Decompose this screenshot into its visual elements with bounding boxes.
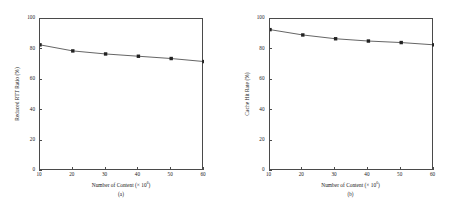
x-axis-label-a-prefix: Number of Content (× 10: [92, 182, 147, 188]
x-tick-label: 60: [193, 172, 213, 177]
y-tick-label: 60: [237, 76, 265, 81]
y-tick-label: 60: [7, 76, 35, 81]
chart-panel-a: 020406080100 102030405060 Reduced RTT Ra…: [0, 0, 230, 208]
x-tick-label: 20: [62, 172, 82, 177]
figure-container: 020406080100 102030405060 Reduced RTT Ra…: [0, 0, 459, 208]
y-tick-label: 40: [237, 107, 265, 112]
data-point-marker: [432, 43, 434, 46]
y-tick-mark: [39, 140, 42, 141]
data-point-marker: [333, 37, 336, 40]
x-axis-label-b: Number of Content (× 106): [269, 181, 433, 188]
data-point-marker: [366, 39, 369, 42]
subcaption-b: (b): [269, 191, 433, 197]
x-axis-label-a-suffix: ): [148, 182, 150, 188]
x-tick-mark: [367, 167, 368, 170]
data-point-marker: [137, 55, 140, 58]
y-tick-mark: [39, 109, 42, 110]
y-tick-label: 40: [7, 107, 35, 112]
x-axis-label-b-suffix: ): [378, 182, 380, 188]
y-tick-mark: [39, 18, 42, 19]
y-axis-label-a: Reduced RTT Ratio (%): [14, 67, 20, 120]
x-tick-mark: [105, 167, 106, 170]
y-tick-mark: [269, 18, 272, 19]
plot-svg-a: [40, 19, 204, 171]
x-tick-mark: [400, 167, 401, 170]
data-point-marker: [202, 60, 204, 63]
x-tick-mark: [137, 167, 138, 170]
y-tick-mark: [269, 79, 272, 80]
data-line: [40, 45, 204, 62]
y-tick-label: 80: [7, 46, 35, 51]
y-tick-label: 80: [237, 46, 265, 51]
x-tick-label: 40: [127, 172, 147, 177]
data-point-marker: [170, 57, 173, 60]
x-tick-mark: [301, 167, 302, 170]
x-axis-label-a: Number of Content (× 106): [39, 181, 203, 188]
x-tick-label: 20: [291, 172, 311, 177]
x-tick-label: 10: [29, 172, 49, 177]
y-tick-label: 20: [237, 137, 265, 142]
y-tick-label: 100: [7, 15, 35, 20]
plot-area-a: [39, 18, 203, 170]
y-tick-mark: [269, 48, 272, 49]
x-tick-label: 30: [324, 172, 344, 177]
x-tick-label: 50: [160, 172, 180, 177]
x-tick-label: 30: [95, 172, 115, 177]
y-tick-label: 100: [237, 15, 265, 20]
y-tick-mark: [39, 79, 42, 80]
data-point-marker: [40, 43, 42, 46]
plot-area-b: [269, 18, 433, 170]
data-line: [270, 30, 434, 45]
subcaption-a: (a): [39, 191, 203, 197]
y-axis-label-b: Cache Hit Rate (%): [244, 72, 250, 115]
x-tick-label: 60: [423, 172, 443, 177]
data-point-marker: [301, 33, 304, 36]
x-tick-mark: [334, 167, 335, 170]
x-tick-label: 10: [259, 172, 279, 177]
y-tick-mark: [269, 109, 272, 110]
x-tick-mark: [269, 167, 270, 170]
y-tick-label: 20: [7, 137, 35, 142]
x-tick-mark: [170, 167, 171, 170]
x-axis-label-b-prefix: Number of Content (× 10: [321, 182, 376, 188]
y-tick-mark: [269, 140, 272, 141]
x-tick-mark: [433, 167, 434, 170]
y-tick-mark: [39, 48, 42, 49]
x-tick-mark: [39, 167, 40, 170]
data-point-marker: [71, 49, 74, 52]
data-point-marker: [104, 52, 107, 55]
chart-panel-b: 020406080100 102030405060 Cache Hit Rate…: [230, 0, 459, 208]
data-point-marker: [270, 28, 272, 31]
x-tick-mark: [203, 167, 204, 170]
x-tick-mark: [72, 167, 73, 170]
plot-svg-b: [270, 19, 434, 171]
data-point-marker: [399, 41, 402, 44]
x-tick-label: 40: [357, 172, 377, 177]
x-tick-label: 50: [390, 172, 410, 177]
